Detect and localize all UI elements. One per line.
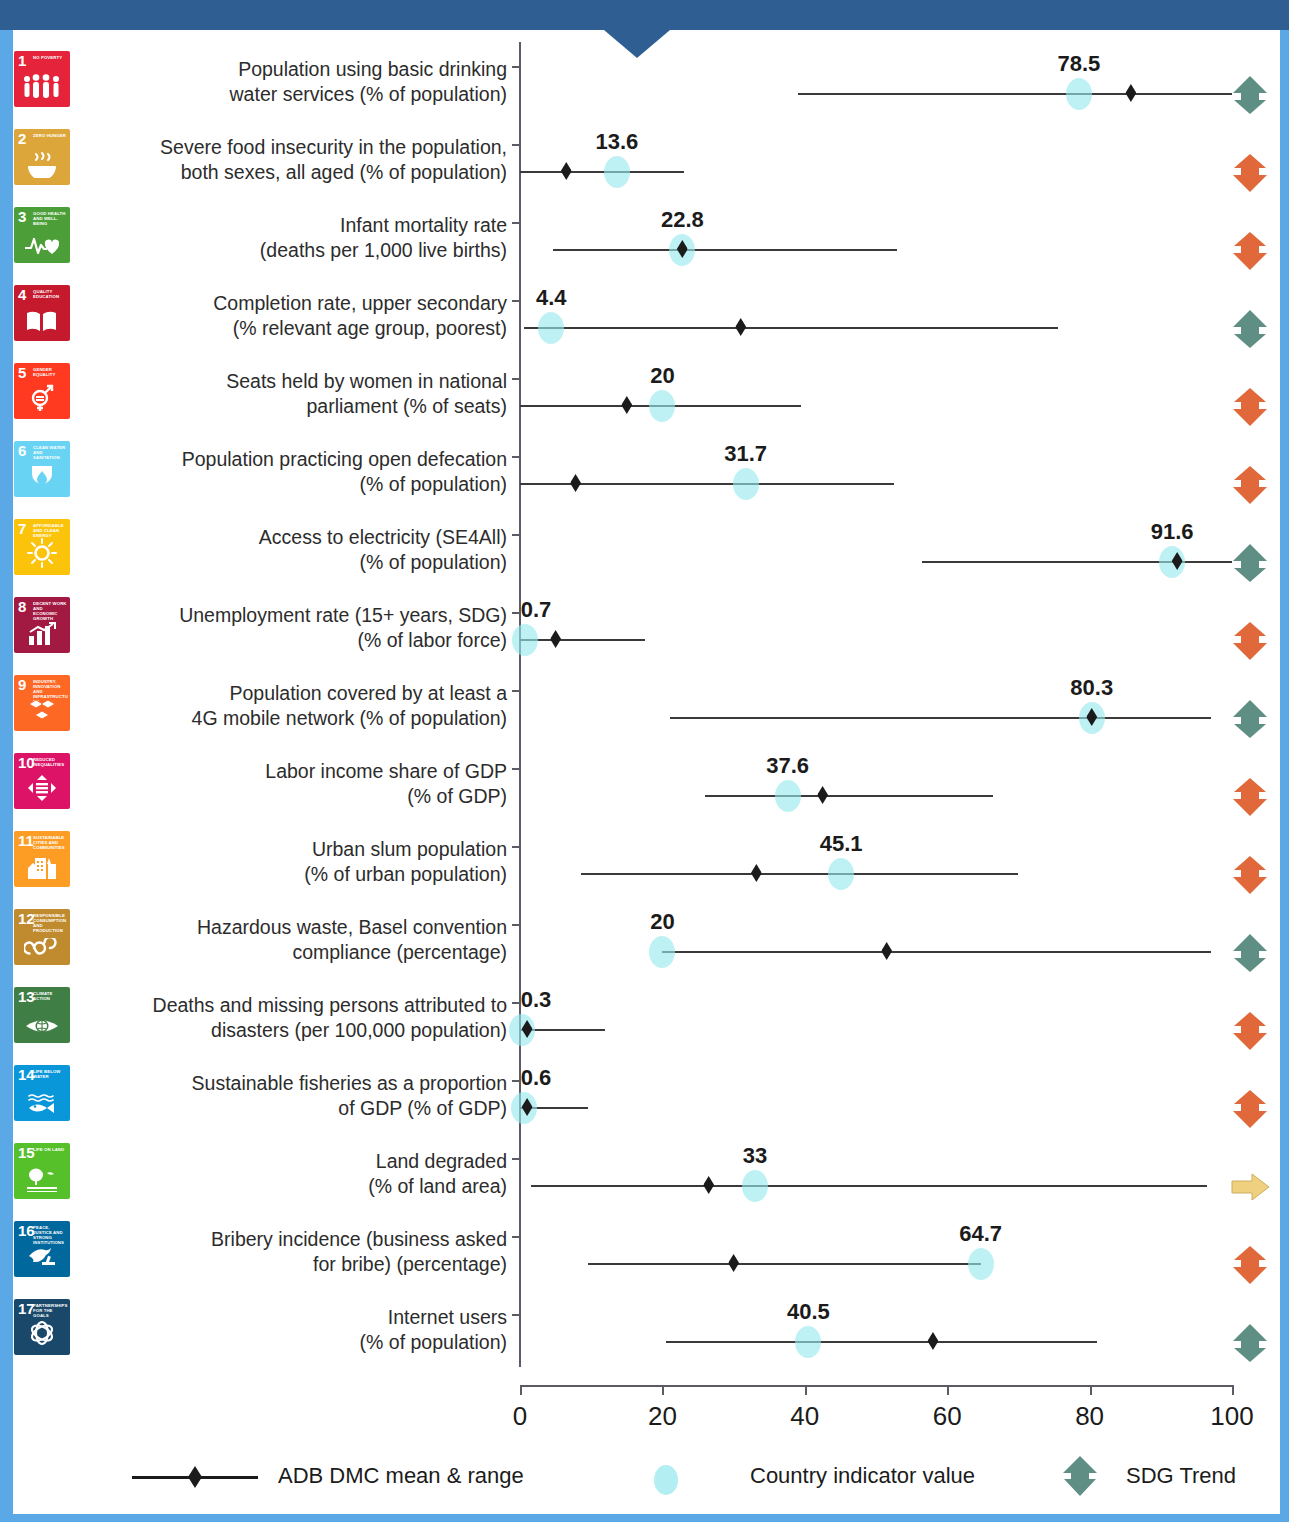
indicator-label-line: (% of labor force) — [82, 628, 507, 653]
bottom-border — [0, 1514, 1289, 1522]
sdg-goal-tag: LIFE ON LAND — [33, 1147, 68, 1152]
indicator-label-line: Unemployment rate (15+ years, SDG) — [82, 603, 507, 628]
country-indicator-bubble[interactable] — [604, 156, 630, 188]
mean-diamond-marker[interactable] — [561, 162, 572, 180]
sdg-goal-12-icon[interactable]: 12RESPONSIBLE CONSUMPTION AND PRODUCTION — [14, 909, 70, 965]
indicator-label-line: Land degraded — [82, 1149, 507, 1174]
indicator-plot: 64.7 — [520, 1213, 1232, 1291]
sdg-trend-arrow-down-icon — [1228, 619, 1272, 663]
country-indicator-bubble[interactable] — [1066, 78, 1092, 110]
indicator-row: 17PARTNERSHIPS FOR THE GOALSInternet use… — [0, 1291, 1289, 1369]
country-indicator-bubble[interactable] — [795, 1326, 821, 1358]
country-indicator-bubble[interactable] — [649, 390, 675, 422]
indicator-label-line: Labor income share of GDP — [82, 759, 507, 784]
mean-diamond-marker[interactable] — [621, 396, 632, 414]
sdg-goal-13-icon[interactable]: 13CLIMATE ACTION — [14, 987, 70, 1043]
sdg-goal-tag: NO POVERTY — [33, 55, 68, 60]
x-axis-tick-label: 40 — [790, 1401, 819, 1432]
sdg-goal-4-icon[interactable]: 4QUALITY EDUCATION — [14, 285, 70, 341]
sdg-goal-14-icon[interactable]: 14LIFE BELOW WATER — [14, 1065, 70, 1121]
sdg-trend-arrow-flat-icon — [1228, 1165, 1272, 1209]
legend-country-bubble-icon — [654, 1465, 678, 1495]
indicator-plot: 22.8 — [520, 199, 1232, 277]
indicator-plot: 31.7 — [520, 433, 1232, 511]
indicator-label-line: for bribe) (percentage) — [82, 1252, 507, 1277]
mean-diamond-marker[interactable] — [550, 630, 561, 648]
mean-diamond-marker[interactable] — [927, 1332, 938, 1350]
eye-globe-icon — [14, 1014, 70, 1040]
mean-diamond-marker[interactable] — [728, 1254, 739, 1272]
sdg-goal-1-icon[interactable]: 1NO POVERTY — [14, 51, 70, 107]
indicator-plot: 20 — [520, 901, 1232, 979]
sdg-goal-2-icon[interactable]: 2ZERO HUNGER — [14, 129, 70, 185]
mean-range-line — [798, 93, 1232, 95]
mean-diamond-marker[interactable] — [817, 786, 828, 804]
equal-arrows-icon — [14, 774, 70, 806]
sdg-trend-arrow-down-icon — [1228, 775, 1272, 819]
x-axis-tick — [662, 1385, 664, 1395]
indicator-plot: 13.6 — [520, 121, 1232, 199]
sdg-goal-17-icon[interactable]: 17PARTNERSHIPS FOR THE GOALS — [14, 1299, 70, 1355]
mean-diamond-marker[interactable] — [751, 864, 762, 882]
indicator-row: 16PEACE, JUSTICE AND STRONG INSTITUTIONS… — [0, 1213, 1289, 1291]
indicator-row: 5GENDER EQUALITYSeats held by women in n… — [0, 355, 1289, 433]
sdg-goal-8-icon[interactable]: 8DECENT WORK AND ECONOMIC GROWTH — [14, 597, 70, 653]
indicator-label: Internet users(% of population) — [82, 1305, 507, 1355]
x-axis — [520, 1385, 1233, 1387]
country-value-label: 20 — [650, 909, 674, 935]
indicator-label-line: Deaths and missing persons attributed to — [82, 993, 507, 1018]
mean-range-line — [520, 171, 684, 173]
mean-diamond-marker[interactable] — [881, 942, 892, 960]
sdg-goal-7-icon[interactable]: 7AFFORDABLE AND CLEAN ENERGY — [14, 519, 70, 575]
sdg-goal-tag: GOOD HEALTH AND WELL-BEING — [33, 211, 68, 226]
mean-diamond-marker[interactable] — [703, 1176, 714, 1194]
mean-diamond-marker[interactable] — [735, 318, 746, 336]
sdg-goal-number: 1 — [18, 53, 26, 68]
country-indicator-bubble[interactable] — [775, 780, 801, 812]
sdg-goal-16-icon[interactable]: 16PEACE, JUSTICE AND STRONG INSTITUTIONS — [14, 1221, 70, 1277]
sdg-goal-5-icon[interactable]: 5GENDER EQUALITY — [14, 363, 70, 419]
indicator-label-line: Seats held by women in national — [82, 369, 507, 394]
x-axis-tick — [1090, 1385, 1092, 1395]
mean-diamond-marker[interactable] — [570, 474, 581, 492]
indicator-row: 2ZERO HUNGERSevere food insecurity in th… — [0, 121, 1289, 199]
indicator-label: Seats held by women in nationalparliamen… — [82, 369, 507, 419]
sdg-trend-arrow-down-icon — [1228, 385, 1272, 429]
sdg-goal-tag: ZERO HUNGER — [33, 133, 68, 138]
indicator-label-line: disasters (per 100,000 population) — [82, 1018, 507, 1043]
sdg-goal-9-icon[interactable]: 9INDUSTRY, INNOVATION AND INFRASTRUCTURE — [14, 675, 70, 731]
indicator-plot: 20 — [520, 355, 1232, 433]
mean-range-line — [581, 873, 1019, 875]
sdg-goal-10-icon[interactable]: 10REDUCED INEQUALITIES — [14, 753, 70, 809]
x-axis-tick-label: 60 — [933, 1401, 962, 1432]
sdg-goal-6-icon[interactable]: 6CLEAN WATER AND SANITATION — [14, 441, 70, 497]
country-value-label: 0.6 — [521, 1065, 552, 1091]
indicator-label-line: Access to electricity (SE4All) — [82, 525, 507, 550]
country-value-label: 13.6 — [595, 129, 638, 155]
sdg-goal-tag: CLEAN WATER AND SANITATION — [33, 445, 68, 460]
country-indicator-bubble[interactable] — [968, 1248, 994, 1280]
infinity-icon — [14, 936, 70, 962]
sdg-goal-3-icon[interactable]: 3GOOD HEALTH AND WELL-BEING — [14, 207, 70, 263]
country-indicator-bubble[interactable] — [649, 936, 675, 968]
heartbeat-icon — [14, 234, 70, 260]
indicator-label-line: Sustainable fisheries as a proportion — [82, 1071, 507, 1096]
x-axis-tick — [1232, 1385, 1234, 1395]
country-indicator-bubble[interactable] — [828, 858, 854, 890]
indicator-label: Bribery incidence (business askedfor bri… — [82, 1227, 507, 1277]
country-indicator-bubble[interactable] — [733, 468, 759, 500]
country-indicator-bubble[interactable] — [512, 624, 538, 656]
sdg-goal-15-icon[interactable]: 15LIFE ON LAND — [14, 1143, 70, 1199]
sdg-goal-number: 8 — [18, 599, 26, 614]
city-icon — [14, 856, 70, 884]
indicator-row: 6CLEAN WATER AND SANITATIONPopulation pr… — [0, 433, 1289, 511]
country-indicator-bubble[interactable] — [742, 1170, 768, 1202]
sdg-goal-11-icon[interactable]: 11SUSTAINABLE CITIES AND COMMUNITIES — [14, 831, 70, 887]
mean-diamond-marker[interactable] — [1125, 84, 1136, 102]
country-indicator-bubble[interactable] — [538, 312, 564, 344]
mean-range-line — [531, 1185, 1207, 1187]
indicator-label: Land degraded(% of land area) — [82, 1149, 507, 1199]
mean-range-line — [524, 327, 1057, 329]
indicator-label: Hazardous waste, Basel conventioncomplia… — [82, 915, 507, 965]
circle-rings-icon — [14, 1318, 70, 1352]
